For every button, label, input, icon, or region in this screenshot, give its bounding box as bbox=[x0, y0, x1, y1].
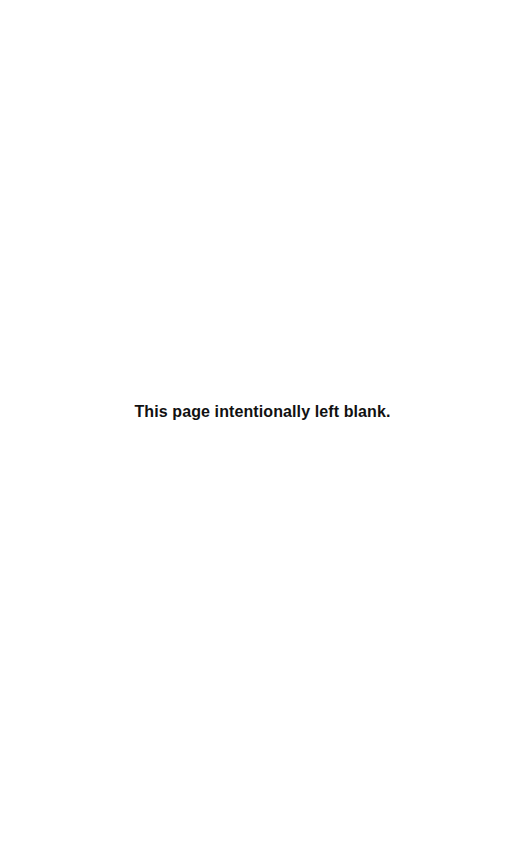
document-page: This page intentionally left blank. bbox=[0, 0, 525, 859]
blank-page-notice: This page intentionally left blank. bbox=[0, 403, 525, 421]
